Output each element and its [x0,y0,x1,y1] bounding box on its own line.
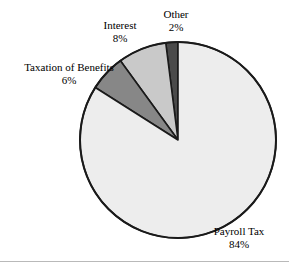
slice-label-taxation-of-benefits: Taxation of Benefits 6% [14,61,124,87]
slice-label-value: 6% [14,74,124,87]
bottom-divider-rule [0,261,289,262]
slice-label-other: Other 2% [147,8,205,34]
slice-label-payroll-tax: Payroll Tax 84% [196,225,282,251]
slice-label-name: Interest [88,19,152,32]
slice-label-value: 8% [88,32,152,45]
slice-label-value: 84% [196,238,282,251]
slice-label-name: Taxation of Benefits [14,61,124,74]
slice-label-interest: Interest 8% [88,19,152,45]
slice-label-name: Payroll Tax [196,225,282,238]
slice-label-value: 2% [147,21,205,34]
slice-label-name: Other [147,8,205,21]
pie-chart-figure: Taxation of Benefits 6% Interest 8% Othe… [0,0,289,267]
